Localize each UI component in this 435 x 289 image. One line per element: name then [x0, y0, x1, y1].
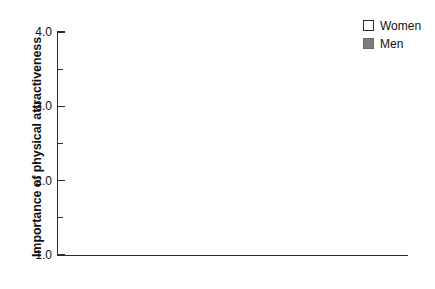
y-tick-major — [58, 31, 65, 32]
y-tick-minor — [58, 217, 63, 218]
legend-item-women: Women — [363, 18, 421, 33]
legend-label-women: Women — [380, 20, 421, 32]
y-tick-minor — [58, 143, 63, 144]
y-tick-major — [58, 180, 65, 181]
y-tick-label: 1.0 — [16, 249, 52, 261]
x-axis-line — [57, 255, 408, 256]
y-tick-major — [58, 254, 65, 255]
legend: Women Men — [363, 18, 421, 54]
bar-chart: Importance of physical attractiveness 1.… — [0, 0, 435, 289]
y-tick-label: 3.0 — [16, 100, 52, 112]
y-axis-label: Importance of physical attractiveness — [30, 32, 44, 262]
y-tick-major — [58, 106, 65, 107]
y-tick-label: 4.0 — [16, 26, 52, 38]
y-tick-label: 2.0 — [16, 175, 52, 187]
y-tick-minor — [58, 69, 63, 70]
legend-swatch-women-icon — [363, 20, 374, 31]
legend-item-men: Men — [363, 36, 421, 51]
legend-label-men: Men — [380, 38, 403, 50]
legend-swatch-men-icon — [363, 38, 374, 49]
